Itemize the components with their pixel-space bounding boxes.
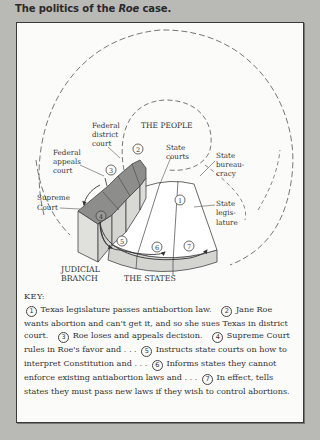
svg-text:3: 3: [109, 167, 113, 175]
key-item-3: Roe loses and appeals decision.: [73, 330, 203, 340]
key-section: KEY: 1 Texas legislature passes antiabor…: [24, 290, 296, 398]
key-marker-7: 7: [202, 374, 213, 385]
svg-text:1: 1: [178, 197, 182, 205]
svg-text:district: district: [92, 130, 118, 139]
step-marker-2: 2: [133, 144, 143, 154]
svg-text:State: State: [216, 151, 235, 160]
label-supreme-court: Supreme Court: [37, 193, 70, 212]
step-marker-3: 3: [106, 165, 116, 175]
label-the-states: THE STATES: [124, 274, 176, 283]
key-marker-4: 4: [212, 332, 223, 343]
svg-text:legis-: legis-: [216, 208, 236, 217]
svg-text:Federal: Federal: [92, 121, 120, 130]
svg-text:Federal: Federal: [53, 148, 81, 157]
key-text: 1 Texas legislature passes antiabortion …: [24, 303, 296, 398]
svg-text:BRANCH: BRANCH: [61, 274, 98, 283]
svg-text:court: court: [92, 139, 111, 148]
key-marker-5: 5: [141, 346, 152, 357]
svg-text:Court: Court: [37, 203, 58, 212]
label-federal-district-court: Federal district court: [92, 121, 120, 148]
svg-text:State: State: [216, 199, 235, 208]
key-marker-3: 3: [58, 332, 69, 343]
key-title: KEY:: [24, 290, 296, 303]
label-federal-appeals-court: Federal appeals court: [53, 148, 81, 175]
key-marker-1: 1: [26, 306, 37, 317]
key-marker-2: 2: [221, 306, 232, 317]
svg-text:5: 5: [120, 238, 124, 246]
svg-text:courts: courts: [166, 152, 189, 161]
step-marker-1: 1: [175, 195, 185, 205]
label-judicial-branch: JUDICIAL BRANCH: [60, 265, 100, 283]
label-state-courts: State courts: [166, 143, 189, 161]
svg-text:6: 6: [155, 244, 159, 252]
svg-text:JUDICIAL: JUDICIAL: [60, 265, 100, 274]
step-marker-4: 4: [96, 211, 106, 221]
svg-text:2: 2: [136, 146, 140, 154]
svg-text:appeals: appeals: [53, 157, 81, 166]
svg-text:court: court: [53, 166, 72, 175]
svg-text:bureau-: bureau-: [216, 160, 245, 169]
key-item-1: Texas legislature passes antiabortion la…: [41, 304, 212, 314]
label-the-people: THE PEOPLE: [141, 121, 193, 130]
label-state-legislature: State legis- lature: [216, 199, 238, 227]
key-marker-6: 6: [152, 360, 163, 371]
svg-text:Supreme: Supreme: [37, 193, 70, 202]
svg-text:lature: lature: [216, 218, 238, 227]
step-marker-5: 5: [117, 236, 127, 246]
svg-text:cracy: cracy: [216, 169, 237, 178]
svg-text:4: 4: [99, 213, 103, 221]
svg-text:7: 7: [187, 243, 191, 251]
step-marker-7: 7: [184, 241, 194, 251]
step-marker-6: 6: [152, 242, 162, 252]
svg-text:State: State: [166, 143, 185, 152]
label-state-bureaucracy: State bureau- cracy: [216, 151, 245, 178]
